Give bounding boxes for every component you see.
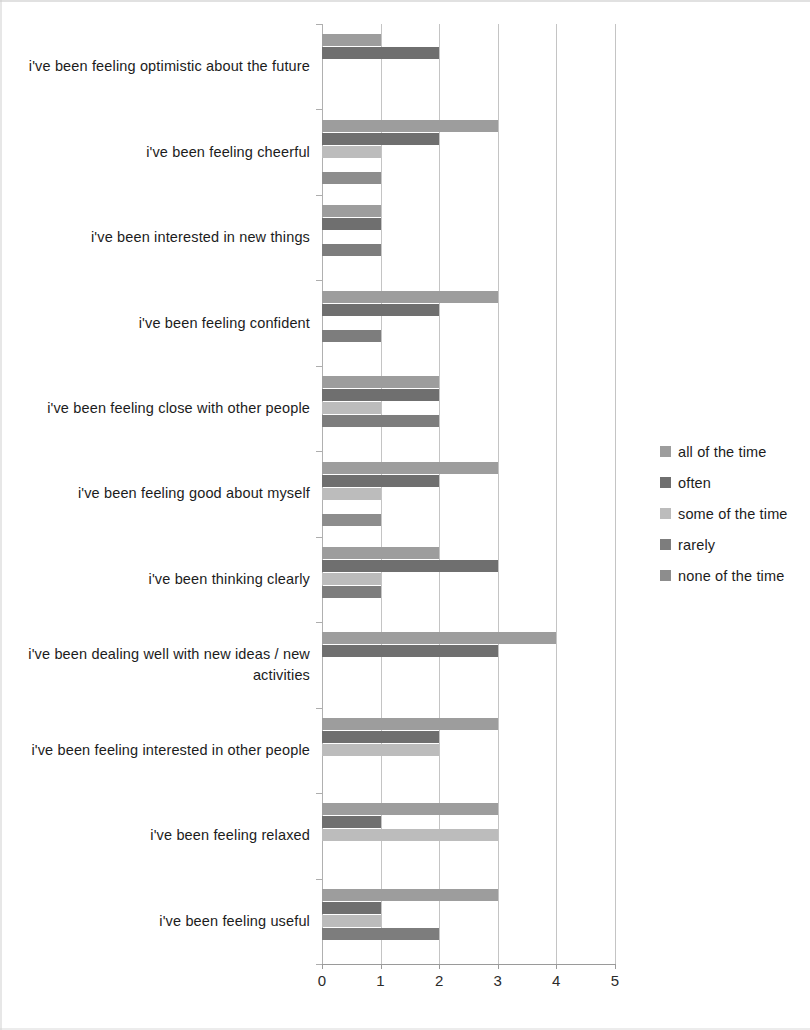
legend: all of the timeoftensome of the timerare… [660,436,808,591]
x-axis-line [322,964,615,965]
legend-item: often [660,467,808,498]
bar [322,133,439,145]
bar [322,389,439,401]
x-tick-mark [381,964,382,969]
bar [322,547,439,559]
category-label: i've been feeling relaxed [22,825,322,846]
bar [322,304,439,316]
x-tick-label: 5 [600,972,630,989]
bar [322,915,381,927]
bar [322,928,439,940]
bar [322,475,439,487]
x-tick-label: 4 [541,972,571,989]
legend-label: often [678,475,711,491]
category-label-row: i've been feeling optimistic about the f… [0,24,322,109]
bar [322,47,439,59]
bar [322,402,381,414]
bar [322,462,498,474]
category-label: i've been feeling good about myself [22,483,322,504]
x-tick-mark [439,964,440,969]
category-label-row: i've been dealing well with new ideas / … [0,622,322,707]
legend-label: none of the time [678,568,784,584]
category-label-row: i've been feeling confident [0,280,322,365]
bar [322,731,439,743]
x-tick-label: 0 [307,972,337,989]
bar [322,376,439,388]
x-tick-mark [322,964,323,969]
legend-label: rarely [678,537,715,553]
category-label: i've been feeling cheerful [22,142,322,163]
category-label: i've been thinking clearly [22,569,322,590]
x-tick-mark [615,964,616,969]
legend-item: all of the time [660,436,808,467]
legend-item: some of the time [660,498,808,529]
legend-swatch-icon [660,477,671,488]
bar [322,146,381,158]
legend-item: none of the time [660,560,808,591]
bar [322,902,381,914]
bar [322,244,381,256]
category-label-row: i've been feeling cheerful [0,109,322,194]
category-label-row: i've been feeling good about myself [0,451,322,536]
bar [322,330,381,342]
bar [322,560,498,572]
category-label-row: i've been feeling interested in other pe… [0,708,322,793]
category-label: i've been feeling interested in other pe… [22,740,322,761]
legend-swatch-icon [660,446,671,457]
category-label-row: i've been thinking clearly [0,537,322,622]
bar [322,829,498,841]
bar [322,645,498,657]
bar [322,218,381,230]
bar [322,291,498,303]
category-label: i've been interested in new things [22,227,322,248]
bar [322,632,556,644]
plot-area [322,24,615,964]
x-tick-label: 2 [424,972,454,989]
bar [322,205,381,217]
category-label-row: i've been feeling close with other peopl… [0,366,322,451]
bar [322,889,498,901]
bar [322,120,498,132]
bar [322,34,381,46]
chart-page: 012345 i've been feeling optimistic abou… [0,0,810,1030]
legend-label: all of the time [678,444,767,460]
bar [322,586,381,598]
legend-label: some of the time [678,506,788,522]
bar [322,415,439,427]
bar [322,573,381,585]
bar [322,488,381,500]
category-label-row: i've been interested in new things [0,195,322,280]
category-label-row: i've been feeling useful [0,879,322,964]
x-tick-label: 1 [366,972,396,989]
legend-item: rarely [660,529,808,560]
legend-swatch-icon [660,570,671,581]
category-label: i've been feeling close with other peopl… [22,398,322,419]
x-tick-mark [556,964,557,969]
category-label-row: i've been feeling relaxed [0,793,322,878]
category-label: i've been feeling confident [22,313,322,334]
bar [322,803,498,815]
category-label: i've been feeling optimistic about the f… [22,56,322,77]
legend-swatch-icon [660,539,671,550]
category-label: i've been dealing well with new ideas / … [22,644,322,686]
legend-swatch-icon [660,508,671,519]
bar [322,172,381,184]
bar [322,718,498,730]
bar [322,744,439,756]
gridline [615,24,616,964]
x-tick-label: 3 [483,972,513,989]
x-tick-mark [498,964,499,969]
bar [322,514,381,526]
grouped-bar-chart: 012345 i've been feeling optimistic abou… [0,0,810,1030]
category-label: i've been feeling useful [22,911,322,932]
bar [322,816,381,828]
